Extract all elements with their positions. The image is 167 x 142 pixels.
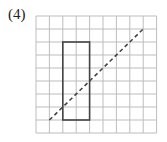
grid-figure	[0, 0, 167, 142]
